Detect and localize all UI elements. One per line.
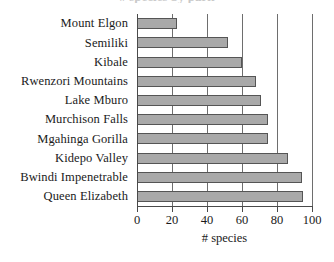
x-tick bbox=[242, 207, 243, 212]
bars-layer bbox=[137, 14, 312, 206]
y-tick-label: Mount Elgon bbox=[0, 14, 133, 33]
bar[interactable] bbox=[137, 57, 242, 68]
x-tick bbox=[172, 207, 173, 212]
bar[interactable] bbox=[137, 133, 268, 144]
y-tick-label: Bwindi Impenetrable bbox=[0, 168, 133, 187]
x-tick-label: 100 bbox=[303, 213, 322, 228]
x-tick-label: 20 bbox=[166, 213, 179, 228]
x-tick bbox=[137, 207, 138, 212]
x-tick-label: 80 bbox=[271, 213, 284, 228]
bar[interactable] bbox=[137, 76, 256, 87]
x-axis-ticks bbox=[137, 207, 312, 212]
y-tick-label: Mgahinga Gorilla bbox=[0, 129, 133, 148]
gridline bbox=[312, 14, 313, 206]
bar-row bbox=[137, 14, 312, 33]
y-tick-label: Queen Elizabeth bbox=[0, 187, 133, 206]
bar-row bbox=[137, 91, 312, 110]
y-axis-category-labels: Mount ElgonSemilikiKibaleRwenzori Mounta… bbox=[0, 14, 133, 206]
y-axis-line bbox=[137, 14, 138, 207]
x-axis-title: # species bbox=[137, 231, 312, 245]
y-tick-label: Murchison Falls bbox=[0, 110, 133, 129]
y-tick-label: Kibale bbox=[0, 52, 133, 71]
x-tick bbox=[207, 207, 208, 212]
bar[interactable] bbox=[137, 95, 261, 106]
bar-row bbox=[137, 52, 312, 71]
bar-row bbox=[137, 148, 312, 167]
bar-row bbox=[137, 33, 312, 52]
bar[interactable] bbox=[137, 114, 268, 125]
x-tick-label: 60 bbox=[236, 213, 249, 228]
y-tick-label: Kidepo Valley bbox=[0, 148, 133, 167]
x-axis-tick-labels: 020406080100 bbox=[137, 213, 312, 228]
y-tick-label: Semiliki bbox=[0, 33, 133, 52]
bar-row bbox=[137, 168, 312, 187]
bar-row bbox=[137, 187, 312, 206]
bar-chart-figure: # species by park Mount ElgonSemilikiKib… bbox=[0, 0, 334, 262]
bar-row bbox=[137, 129, 312, 148]
y-tick-label: Rwenzori Mountains bbox=[0, 72, 133, 91]
x-tick bbox=[277, 207, 278, 212]
bar[interactable] bbox=[137, 191, 303, 202]
bar[interactable] bbox=[137, 153, 288, 164]
bar[interactable] bbox=[137, 172, 302, 183]
chart-title: # species by park bbox=[0, 0, 334, 3]
x-tick-label: 40 bbox=[201, 213, 214, 228]
bar[interactable] bbox=[137, 18, 177, 29]
y-tick-label: Lake Mburo bbox=[0, 91, 133, 110]
plot-area bbox=[137, 14, 312, 206]
bar-row bbox=[137, 110, 312, 129]
x-tick bbox=[312, 207, 313, 212]
bar-row bbox=[137, 72, 312, 91]
bar[interactable] bbox=[137, 37, 228, 48]
x-tick-label: 0 bbox=[134, 213, 140, 228]
